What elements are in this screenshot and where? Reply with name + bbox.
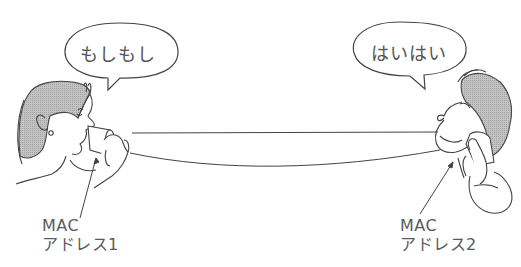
- mac-address-1-line2: アドレス1: [42, 235, 119, 254]
- mac-address-1-line1: MAC: [42, 216, 119, 235]
- upper-string: [132, 132, 438, 133]
- pointer-left: [80, 158, 96, 218]
- mac-address-2-line1: MAC: [400, 216, 477, 235]
- man-figure: [435, 70, 511, 213]
- string-lines: [130, 132, 440, 166]
- lower-string: [130, 150, 440, 166]
- woman-hair: [19, 81, 90, 158]
- speech-text-left: もしもし: [80, 40, 156, 66]
- pointer-left-arrow: [94, 158, 99, 164]
- mac-address-1-label: MAC アドレス1: [42, 216, 119, 254]
- woman-figure: [16, 81, 129, 188]
- pointer-right-arrow: [448, 162, 453, 168]
- mac-address-2-label: MAC アドレス2: [400, 216, 477, 254]
- speech-text-right: はいはい: [371, 39, 447, 65]
- pointer-lines: [80, 158, 453, 218]
- pointer-right: [420, 162, 453, 214]
- mac-address-2-line2: アドレス2: [400, 235, 477, 254]
